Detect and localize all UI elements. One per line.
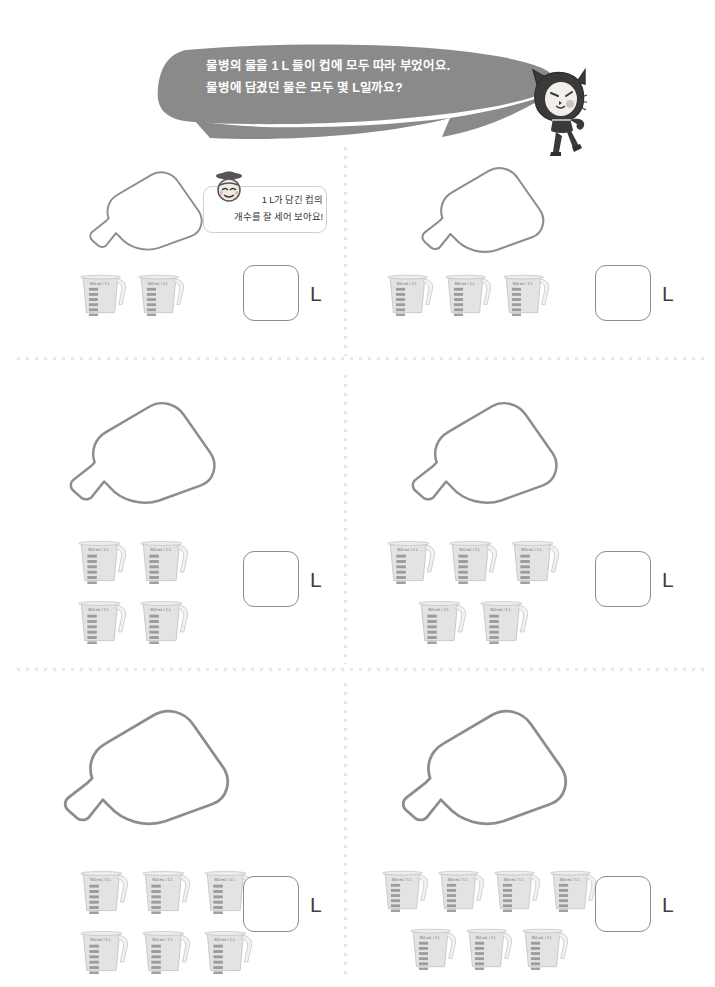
svg-text:800 mL / 1 L: 800 mL / 1 L xyxy=(532,936,552,940)
cup-group-panel-3: 800 mL / 1 L 800 mL / 1 L 800 mL / 1 L xyxy=(76,534,200,654)
answer-input[interactable] xyxy=(595,876,651,932)
measuring-cup-icon: 800 mL / 1 L xyxy=(492,864,542,912)
bottle-icon xyxy=(420,160,548,260)
measuring-cup: 800 mL / 1 L xyxy=(492,864,542,916)
measuring-cup: 800 mL / 1 L xyxy=(202,924,254,978)
measuring-cup-icon: 800 mL / 1 L xyxy=(76,594,128,644)
cup-group-panel-5: 800 mL / 1 L 800 mL / 1 L 800 mL / 1 L xyxy=(78,864,264,984)
answer-group-panel-4: L xyxy=(595,551,674,607)
divider-vertical-row3 xyxy=(344,680,347,980)
question-bubble: 물병의 물을 1 L 들이 컵에 모두 따라 부었어요. 물병에 담겼던 물은 … xyxy=(150,38,570,148)
measuring-cup: 800 mL / 1 L xyxy=(140,864,192,918)
svg-text:800 mL / 1 L: 800 mL / 1 L xyxy=(90,878,111,882)
hint-bubble: 1 L가 담긴 컵의 개수를 잘 세어 보아요! xyxy=(203,186,327,233)
measuring-cup: 800 mL / 1 L xyxy=(380,864,430,916)
measuring-cup-icon: 800 mL / 1 L xyxy=(443,268,493,316)
measuring-cup-icon: 800 mL / 1 L xyxy=(380,864,430,912)
svg-text:800 mL / 1 L: 800 mL / 1 L xyxy=(392,878,412,882)
answer-unit-label: L xyxy=(662,894,674,915)
svg-text:800 mL / 1 L: 800 mL / 1 L xyxy=(560,878,580,882)
water-bottle-panel-3 xyxy=(68,394,220,512)
teacher-face-icon xyxy=(209,167,249,207)
measuring-cup: 800 mL / 1 L xyxy=(136,268,186,320)
bottle-icon xyxy=(62,700,234,835)
answer-input[interactable] xyxy=(243,551,299,607)
water-bottle-panel-1 xyxy=(88,163,206,259)
measuring-cup-icon: 800 mL / 1 L xyxy=(136,268,186,316)
measuring-cup: 800 mL / 1 L xyxy=(385,268,435,320)
measuring-cup: 800 mL / 1 L xyxy=(76,534,128,588)
measuring-cup: 800 mL / 1 L xyxy=(548,864,598,916)
measuring-cup: 800 mL / 1 L xyxy=(78,864,130,918)
measuring-cup: 800 mL / 1 L xyxy=(501,268,551,320)
measuring-cup-icon: 800 mL / 1 L xyxy=(78,864,130,914)
measuring-cup: 800 mL / 1 L xyxy=(464,922,514,974)
svg-text:800 mL / 1 L: 800 mL / 1 L xyxy=(397,282,417,286)
svg-text:800 mL / 1 L: 800 mL / 1 L xyxy=(504,878,524,882)
measuring-cup: 800 mL / 1 L xyxy=(78,268,128,320)
measuring-cup: 800 mL / 1 L xyxy=(78,924,130,978)
answer-unit-label: L xyxy=(662,569,674,590)
water-bottle-panel-5 xyxy=(62,700,234,835)
svg-text:800 mL / 1 L: 800 mL / 1 L xyxy=(448,878,468,882)
cup-group-panel-1: 800 mL / 1 L 800 mL / 1 L xyxy=(78,268,194,324)
svg-text:800 mL / 1 L: 800 mL / 1 L xyxy=(455,282,475,286)
measuring-cup-icon: 800 mL / 1 L xyxy=(408,922,458,970)
cat-mascot-icon xyxy=(523,68,599,160)
measuring-cup: 800 mL / 1 L xyxy=(138,594,190,648)
measuring-cup-icon: 800 mL / 1 L xyxy=(509,534,561,584)
bottle-icon xyxy=(400,700,572,835)
svg-text:800 mL / 1 L: 800 mL / 1 L xyxy=(88,608,109,612)
svg-text:800 mL / 1 L: 800 mL / 1 L xyxy=(88,548,109,552)
measuring-cup-icon: 800 mL / 1 L xyxy=(138,534,190,584)
answer-input[interactable] xyxy=(595,551,651,607)
svg-text:800 mL / 1 L: 800 mL / 1 L xyxy=(152,938,173,942)
measuring-cup-icon: 800 mL / 1 L xyxy=(138,594,190,644)
measuring-cup: 800 mL / 1 L xyxy=(509,534,561,588)
bottle-icon xyxy=(88,163,206,259)
answer-input[interactable] xyxy=(243,265,299,321)
answer-unit-label: L xyxy=(310,894,322,915)
measuring-cup-icon: 800 mL / 1 L xyxy=(478,594,530,644)
answer-input[interactable] xyxy=(243,876,299,932)
answer-input[interactable] xyxy=(595,265,651,321)
svg-text:800 mL / 1 L: 800 mL / 1 L xyxy=(513,282,533,286)
svg-text:800 mL / 1 L: 800 mL / 1 L xyxy=(490,608,511,612)
divider-horizontal-2 xyxy=(14,668,704,671)
svg-text:800 mL / 1 L: 800 mL / 1 L xyxy=(428,608,449,612)
measuring-cup-icon: 800 mL / 1 L xyxy=(447,534,499,584)
measuring-cup-icon: 800 mL / 1 L xyxy=(501,268,551,316)
svg-text:800 mL / 1 L: 800 mL / 1 L xyxy=(152,878,173,882)
measuring-cup-icon: 800 mL / 1 L xyxy=(78,924,130,974)
cup-group-panel-2: 800 mL / 1 L 800 mL / 1 L 800 mL / 1 L xyxy=(385,268,559,324)
measuring-cup-icon: 800 mL / 1 L xyxy=(385,268,435,316)
answer-unit-label: L xyxy=(662,283,674,304)
water-bottle-panel-6 xyxy=(400,700,572,835)
measuring-cup: 800 mL / 1 L xyxy=(443,268,493,320)
cup-group-panel-6: 800 mL / 1 L 800 mL / 1 L 800 mL / 1 L xyxy=(380,864,604,980)
water-bottle-panel-2 xyxy=(420,160,548,260)
answer-group-panel-2: L xyxy=(595,265,674,321)
svg-text:800 mL / 1 L: 800 mL / 1 L xyxy=(521,548,542,552)
measuring-cup: 800 mL / 1 L xyxy=(385,534,437,588)
svg-text:800 mL / 1 L: 800 mL / 1 L xyxy=(214,938,235,942)
answer-group-panel-3: L xyxy=(243,551,322,607)
svg-text:800 mL / 1 L: 800 mL / 1 L xyxy=(214,878,235,882)
svg-text:800 mL / 1 L: 800 mL / 1 L xyxy=(90,282,110,286)
measuring-cup-icon: 800 mL / 1 L xyxy=(78,268,128,316)
cup-group-panel-4: 800 mL / 1 L 800 mL / 1 L 800 mL / 1 L xyxy=(385,534,571,654)
question-text: 물병의 물을 1 L 들이 컵에 모두 따라 부었어요. 물병에 담겼던 물은 … xyxy=(206,56,536,99)
answer-group-panel-5: L xyxy=(243,876,322,932)
answer-group-panel-6: L xyxy=(595,876,674,932)
measuring-cup: 800 mL / 1 L xyxy=(447,534,499,588)
answer-unit-label: L xyxy=(310,569,322,590)
measuring-cup: 800 mL / 1 L xyxy=(138,534,190,588)
answer-group-panel-1: L xyxy=(243,265,322,321)
measuring-cup-icon: 800 mL / 1 L xyxy=(520,922,570,970)
svg-text:800 mL / 1 L: 800 mL / 1 L xyxy=(150,608,171,612)
svg-text:800 mL / 1 L: 800 mL / 1 L xyxy=(420,936,440,940)
bottle-icon xyxy=(410,394,562,512)
divider-vertical-row1 xyxy=(344,144,347,356)
water-bottle-panel-4 xyxy=(410,394,562,512)
divider-horizontal-1 xyxy=(14,357,704,360)
